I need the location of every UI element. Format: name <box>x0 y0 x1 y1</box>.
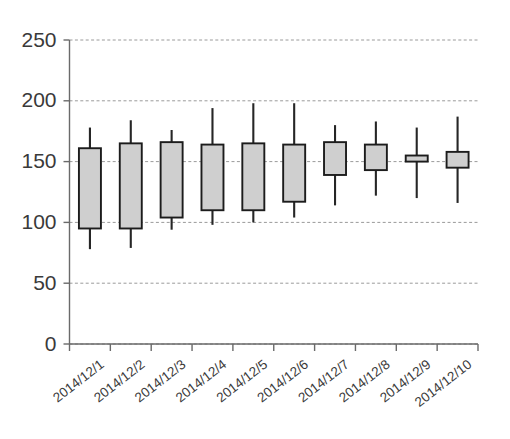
box-whisker-2014-12-4 <box>201 108 223 225</box>
y-tick-label-50: 50 <box>33 271 56 294</box>
box-body <box>161 142 183 217</box>
box-body <box>201 145 223 211</box>
box-whisker-2014-12-10 <box>447 117 469 203</box>
box-whisker-2014-12-2 <box>120 120 142 248</box>
y-tick-labels: 050100150200250 <box>21 28 56 355</box>
box-body <box>242 143 264 210</box>
y-tick-label-100: 100 <box>21 210 56 233</box>
box-body <box>283 145 305 202</box>
box-whisker-2014-12-8 <box>365 121 387 195</box>
box-series <box>79 103 469 249</box>
box-body <box>324 142 346 175</box>
y-axis <box>64 40 70 344</box>
y-tick-label-200: 200 <box>21 88 56 111</box>
y-tick-label-0: 0 <box>45 332 57 355</box>
box-whisker-2014-12-7 <box>324 125 346 205</box>
box-whisker-2014-12-6 <box>283 103 305 217</box>
box-body <box>79 148 101 228</box>
chart-canvas: 050100150200250 2014/12/12014/12/22014/1… <box>0 0 510 439</box>
y-tick-label-250: 250 <box>21 28 56 51</box>
box-whisker-2014-12-9 <box>406 128 428 199</box>
box-whisker-2014-12-5 <box>242 103 264 222</box>
box-plot-chart: 050100150200250 2014/12/12014/12/22014/1… <box>0 0 510 439</box>
x-axis <box>70 344 479 351</box>
y-tick-label-150: 150 <box>21 149 56 172</box>
box-body <box>406 156 428 162</box>
box-body <box>447 152 469 168</box>
box-whisker-2014-12-3 <box>161 130 183 230</box>
box-body <box>365 145 387 171</box>
box-body <box>120 143 142 228</box>
box-whisker-2014-12-1 <box>79 128 101 250</box>
x-tick-labels: 2014/12/12014/12/22014/12/32014/12/42014… <box>50 356 474 410</box>
